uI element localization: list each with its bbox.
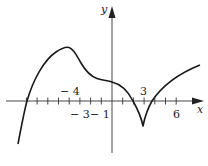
- function-graph: y x − 4 3 − 3 − 1 6: [0, 0, 208, 166]
- y-axis-arrow-icon: [109, 6, 116, 18]
- tick-label-3: 3: [140, 85, 147, 98]
- y-axis-label: y: [100, 3, 108, 16]
- tick-label-neg3: − 3: [70, 108, 90, 121]
- function-curve: [18, 47, 200, 144]
- y-axis: [109, 6, 116, 153]
- tick-label-neg1: − 1: [90, 108, 110, 121]
- tick-label-6: 6: [173, 108, 180, 121]
- x-axis-label: x: [197, 103, 204, 116]
- x-axis: [6, 98, 204, 105]
- tick-label-neg4: − 4: [60, 85, 80, 98]
